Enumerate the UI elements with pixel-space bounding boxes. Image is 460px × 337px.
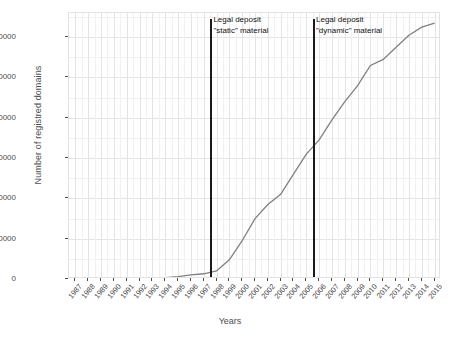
x-tick-mark: [369, 278, 370, 281]
series-line: [69, 13, 440, 278]
annotation-line1: Legal deposit: [213, 14, 268, 25]
x-tick-mark: [241, 278, 242, 281]
x-tick-mark: [280, 278, 281, 281]
y-tick-label: 400000: [0, 193, 16, 202]
annotation-line2: "static" material: [213, 25, 268, 36]
y-tick-label: 600000: [0, 153, 16, 162]
x-tick-mark: [203, 278, 204, 281]
x-tick-mark: [126, 278, 127, 281]
x-tick-mark: [395, 278, 396, 281]
x-tick-mark: [305, 278, 306, 281]
x-tick-mark: [74, 278, 75, 281]
y-tick-label: 800000: [0, 112, 16, 121]
x-tick-mark: [254, 278, 255, 281]
x-tick-mark: [344, 278, 345, 281]
x-tick-mark: [100, 278, 101, 281]
x-tick-mark: [139, 278, 140, 281]
x-tick-mark: [318, 278, 319, 281]
y-tick-label: 1200000: [0, 32, 16, 41]
y-tick-label: 1000000: [0, 72, 16, 81]
annotation-line2: "dynamic" material: [316, 25, 382, 36]
y-axis-title: Number of registred domains: [33, 15, 43, 235]
y-tick-label: 0: [0, 274, 16, 283]
x-tick-mark: [87, 278, 88, 281]
y-tick-mark: [65, 278, 68, 279]
annotation-line-legal-deposit-static: [210, 19, 212, 278]
plot-panel: Legal deposit"static" materialLegal depo…: [68, 12, 440, 278]
x-tick-mark: [164, 278, 165, 281]
x-tick-mark: [421, 278, 422, 281]
x-tick-mark: [151, 278, 152, 281]
annotation-label-legal-deposit-dynamic: Legal deposit"dynamic" material: [316, 14, 382, 36]
x-tick-mark: [228, 278, 229, 281]
annotation-line1: Legal deposit: [316, 14, 382, 25]
x-tick-mark: [331, 278, 332, 281]
x-tick-mark: [113, 278, 114, 281]
x-tick-mark: [267, 278, 268, 281]
chart-container: Number of registred domains Years 020000…: [0, 0, 460, 337]
x-tick-mark: [216, 278, 217, 281]
annotation-label-legal-deposit-static: Legal deposit"static" material: [213, 14, 268, 36]
x-tick-mark: [408, 278, 409, 281]
x-tick-mark: [177, 278, 178, 281]
annotation-line-legal-deposit-dynamic: [313, 19, 315, 278]
x-tick-mark: [434, 278, 435, 281]
x-tick-mark: [357, 278, 358, 281]
x-tick-mark: [382, 278, 383, 281]
y-tick-label: 200000: [0, 233, 16, 242]
x-tick-mark: [190, 278, 191, 281]
x-tick-mark: [292, 278, 293, 281]
